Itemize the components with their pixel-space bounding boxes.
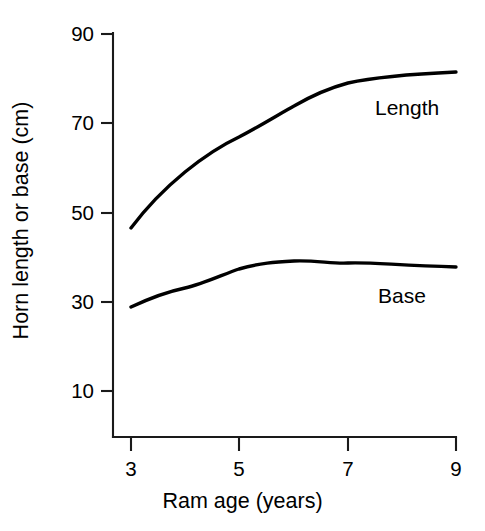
series-annotation-length: Length	[375, 97, 439, 118]
x-tick-label-3: 3	[125, 459, 136, 480]
y-tick-label-90: 90	[52, 24, 94, 45]
y-axis-ticks	[101, 34, 113, 391]
series-annotation-base: Base	[378, 285, 426, 306]
y-axis-title: Horn length or base (cm)	[10, 101, 35, 339]
x-tick-label-5: 5	[233, 459, 244, 480]
y-tick-label-50: 50	[52, 203, 94, 224]
chart-figure: 90 70 50 30 10 3 5 7 9 Length Base Ram a…	[0, 0, 485, 531]
chart-plot-area	[0, 0, 485, 531]
y-tick-label-70: 70	[52, 113, 94, 134]
x-tick-label-7: 7	[342, 459, 353, 480]
x-axis-ticks	[131, 437, 456, 451]
y-tick-label-30: 30	[52, 292, 94, 313]
x-tick-label-9: 9	[450, 459, 461, 480]
y-tick-label-10: 10	[52, 381, 94, 402]
y-axis-title-wrapper: Horn length or base (cm)	[0, 0, 44, 440]
x-axis-title: Ram age (years)	[0, 489, 485, 514]
